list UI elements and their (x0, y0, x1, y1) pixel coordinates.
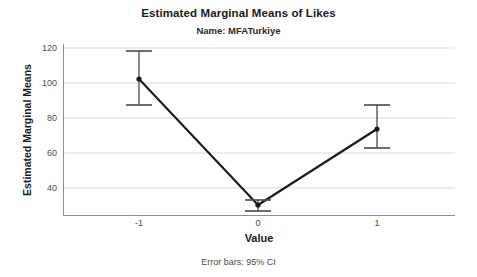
chart-container: Estimated Marginal Means of Likes Name: … (0, 0, 477, 277)
axis-lines (63, 44, 455, 216)
chart-footnote: Error bars: 95% CI (0, 257, 477, 267)
plot-area (0, 0, 477, 277)
data-point-marker (255, 202, 260, 207)
data-point-marker (374, 126, 379, 131)
series-line (139, 79, 377, 205)
gridlines (63, 48, 455, 188)
data-point-marker (136, 76, 141, 81)
